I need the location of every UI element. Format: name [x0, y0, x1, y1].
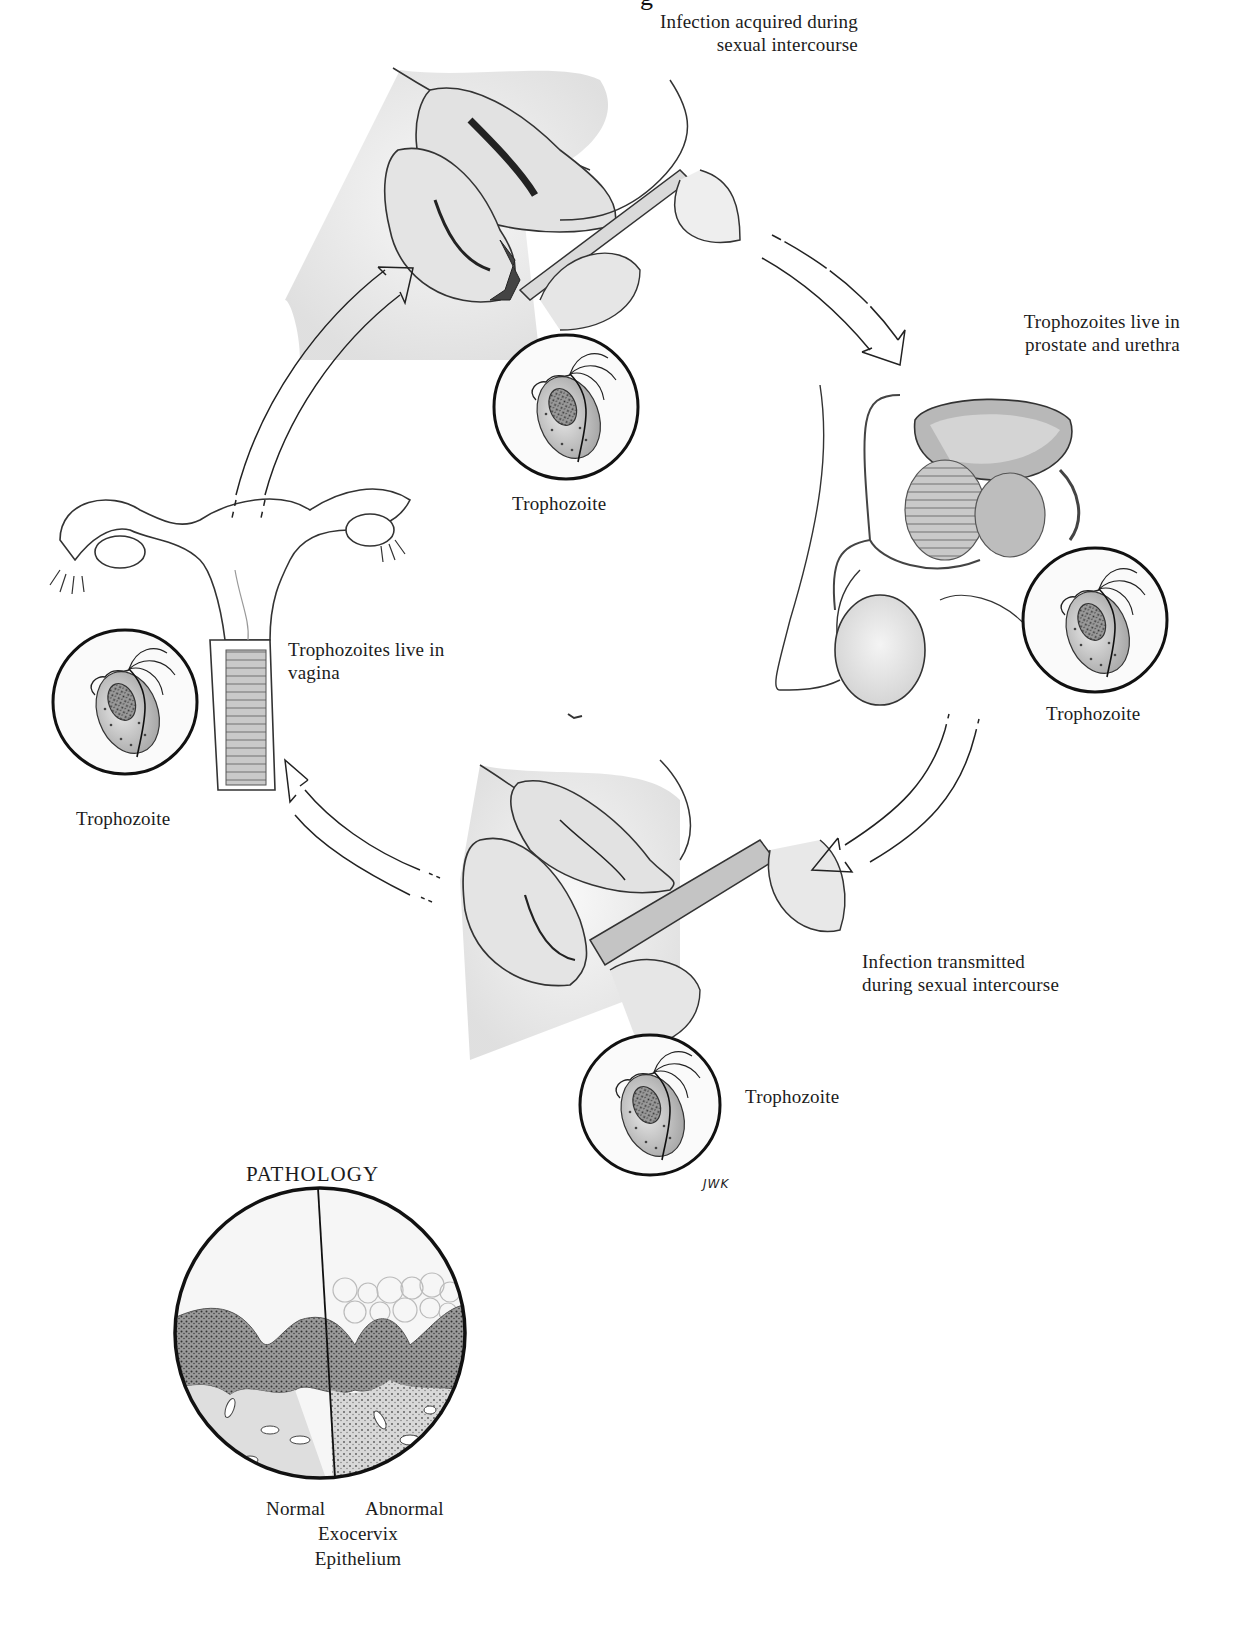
pathology-caption-line1: Exocervix — [258, 1522, 458, 1545]
pathology-label-normal: Normal — [266, 1497, 325, 1520]
life-cycle-diagram — [0, 0, 1249, 1639]
label-trophozoite-right: Trophozoite — [1046, 702, 1140, 725]
label-prostate-urethra: Trophozoites live in prostate and urethr… — [900, 310, 1180, 356]
label-infection-acquired-line2: sexual intercourse — [560, 33, 858, 56]
pathology-title: PATHOLOGY — [246, 1163, 379, 1186]
pathology-caption-line2: Epithelium — [258, 1547, 458, 1570]
label-vagina-line1: Trophozoites live in — [288, 638, 508, 661]
label-transmitted-line2: during sexual intercourse — [862, 973, 1182, 996]
label-vagina-line2: vagina — [288, 661, 508, 684]
artist-signature: JWK — [703, 1173, 729, 1196]
label-prostate-line2: prostate and urethra — [900, 333, 1180, 356]
top-sagittal-section — [285, 68, 740, 360]
label-infection-acquired: Infection acquired during sexual interco… — [560, 10, 858, 56]
right-male-anatomy — [776, 385, 1167, 705]
label-prostate-line1: Trophozoites live in — [900, 310, 1180, 333]
pathology-label-abnormal: Abnormal — [365, 1497, 444, 1520]
label-transmitted-line1: Infection transmitted — [862, 950, 1182, 973]
label-infection-transmitted: Infection transmitted during sexual inte… — [862, 950, 1182, 996]
label-vagina: Trophozoites live in vagina — [288, 638, 508, 684]
label-trophozoite-bottom: Trophozoite — [745, 1085, 839, 1108]
top-trophozoite-inset — [494, 335, 638, 479]
pathology-inset — [170, 1185, 475, 1490]
label-trophozoite-left: Trophozoite — [76, 807, 170, 830]
label-trophozoite-top: Trophozoite — [512, 492, 606, 515]
label-infection-acquired-line1: Infection acquired during — [560, 10, 858, 33]
